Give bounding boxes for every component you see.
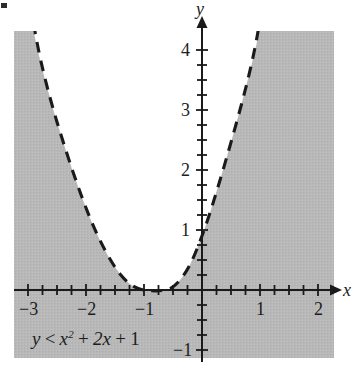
inequality-annotation: y < x2 + 2x + 1 — [32, 329, 140, 348]
x-tick-label-2: 2 — [314, 300, 323, 318]
x-tick-label-neg2: −2 — [77, 300, 96, 318]
figure-canvas: −3 −2 −1 1 2 4 3 2 1 −1 x y y < x2 + 2x … — [0, 0, 355, 366]
x-tick-label-neg1: −1 — [135, 300, 154, 318]
y-axis-label: y — [196, 0, 204, 18]
inequality-lhs: y — [32, 328, 41, 349]
shaded-region-group — [14, 31, 334, 358]
y-tick-label-4: 4 — [181, 41, 190, 59]
y-tick-label-3: 3 — [181, 101, 190, 119]
x-axis-label: x — [343, 281, 351, 299]
y-tick-label-1: 1 — [181, 221, 190, 239]
inequality-term1: x — [60, 328, 69, 349]
x-axis-arrowhead — [330, 285, 342, 296]
inequality-term3: 1 — [130, 328, 140, 349]
shaded-region-below-parabola — [14, 31, 334, 358]
x-tick-label-1: 1 — [256, 300, 265, 318]
x-axis-ticks — [28, 284, 318, 296]
y-axis-ticks — [196, 50, 208, 350]
y-tick-label-neg1: −1 — [173, 341, 192, 359]
inequality-term2: 2x — [93, 328, 111, 349]
x-tick-label-neg3: −3 — [19, 300, 38, 318]
inequality-plus-2: + — [115, 328, 126, 349]
inequality-operator: < — [45, 328, 56, 349]
y-tick-label-2: 2 — [181, 161, 190, 179]
graph-svg — [0, 0, 355, 366]
inequality-plus-1: + — [78, 328, 89, 349]
